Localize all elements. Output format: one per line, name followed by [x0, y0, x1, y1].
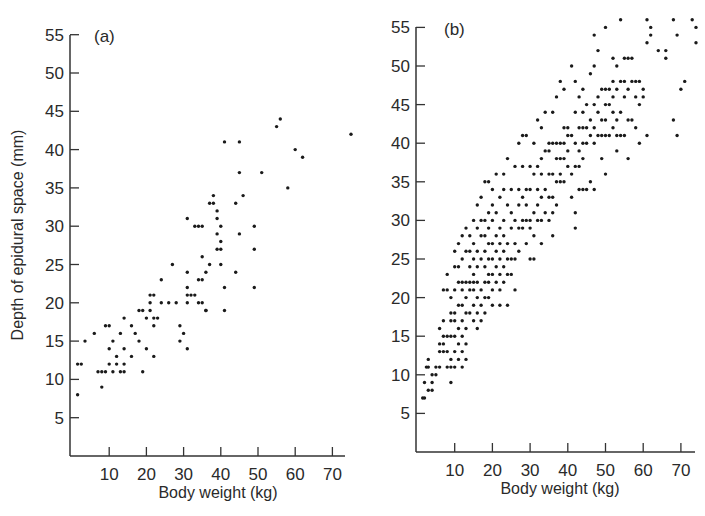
- data-point: [238, 140, 241, 143]
- data-point: [589, 134, 592, 137]
- data-point: [487, 211, 490, 214]
- data-point: [559, 142, 562, 145]
- data-point: [487, 273, 490, 276]
- data-point: [510, 273, 513, 276]
- data-point: [487, 226, 490, 229]
- data-point: [566, 134, 569, 137]
- data-point: [657, 49, 660, 52]
- data-point: [551, 196, 554, 199]
- data-point: [623, 134, 626, 137]
- data-point: [570, 64, 573, 67]
- data-point: [593, 103, 596, 106]
- data-point: [483, 296, 486, 299]
- data-point: [491, 288, 494, 291]
- data-point: [521, 165, 524, 168]
- data-point: [672, 18, 675, 21]
- data-point: [611, 95, 614, 98]
- data-point: [104, 370, 107, 373]
- data-point: [589, 180, 592, 183]
- data-point: [449, 365, 452, 368]
- data-point: [623, 80, 626, 83]
- data-point: [532, 172, 535, 175]
- data-point: [615, 118, 618, 121]
- data-point: [551, 172, 554, 175]
- data-point: [619, 18, 622, 21]
- data-point: [468, 288, 471, 291]
- data-point: [555, 142, 558, 145]
- data-point: [438, 327, 441, 330]
- data-point: [630, 118, 633, 121]
- y-tick-label: 5: [55, 409, 64, 428]
- data-point: [457, 327, 460, 330]
- data-point: [197, 225, 200, 228]
- data-point: [581, 111, 584, 114]
- data-point: [453, 365, 456, 368]
- data-point: [476, 250, 479, 253]
- data-point: [461, 288, 464, 291]
- data-point: [596, 111, 599, 114]
- data-point: [491, 304, 494, 307]
- data-point: [562, 142, 565, 145]
- x-tick-label: 50: [596, 461, 615, 480]
- data-point: [148, 301, 151, 304]
- data-point: [525, 242, 528, 245]
- data-point: [476, 265, 479, 268]
- data-point: [449, 319, 452, 322]
- data-point: [506, 203, 509, 206]
- x-tick-label: 30: [521, 461, 540, 480]
- data-point: [182, 332, 185, 335]
- data-point: [528, 165, 531, 168]
- figure-canvas: Depth of epidural space (mm) (a) 5101520…: [0, 0, 705, 516]
- data-point: [559, 180, 562, 183]
- data-point: [615, 134, 618, 137]
- data-point: [506, 157, 509, 160]
- data-point: [517, 188, 520, 191]
- data-point: [593, 188, 596, 191]
- data-point: [491, 273, 494, 276]
- data-point: [186, 217, 189, 220]
- data-point: [495, 211, 498, 214]
- data-point: [457, 342, 460, 345]
- data-point: [204, 309, 207, 312]
- data-point: [559, 172, 562, 175]
- data-point: [532, 234, 535, 237]
- data-point: [581, 126, 584, 129]
- data-point: [574, 80, 577, 83]
- data-point: [201, 255, 204, 258]
- data-point: [476, 226, 479, 229]
- panel-b-axes: 51015202530354045505510203040506070: [391, 18, 695, 480]
- data-point: [476, 203, 479, 206]
- data-point: [472, 257, 475, 260]
- panel-b-label: (b): [444, 20, 465, 39]
- data-point: [208, 263, 211, 266]
- data-point: [134, 332, 137, 335]
- data-point: [464, 358, 467, 361]
- data-point: [498, 226, 501, 229]
- data-point: [604, 172, 607, 175]
- data-point: [540, 196, 543, 199]
- data-point: [536, 203, 539, 206]
- data-point: [510, 226, 513, 229]
- data-point: [532, 142, 535, 145]
- data-point: [186, 347, 189, 350]
- data-point: [566, 165, 569, 168]
- data-point: [461, 350, 464, 353]
- data-point: [193, 225, 196, 228]
- data-point: [498, 288, 501, 291]
- data-point: [204, 271, 207, 274]
- data-point: [593, 64, 596, 67]
- data-point: [238, 171, 241, 174]
- x-tick-label: 70: [671, 461, 690, 480]
- data-point: [555, 95, 558, 98]
- data-point: [152, 324, 155, 327]
- data-point: [483, 234, 486, 237]
- data-point: [547, 149, 550, 152]
- y-tick-label: 15: [391, 327, 410, 346]
- data-point: [80, 362, 83, 365]
- y-tick-label: 25: [391, 250, 410, 269]
- data-point: [137, 339, 140, 342]
- data-point: [446, 288, 449, 291]
- data-point: [468, 311, 471, 314]
- data-point: [141, 309, 144, 312]
- data-point: [122, 370, 125, 373]
